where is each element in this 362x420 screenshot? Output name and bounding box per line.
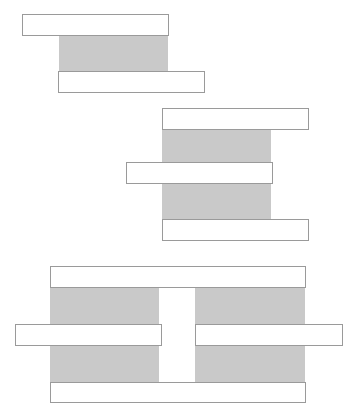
group-3-bar (15, 324, 162, 346)
group-1-bar (22, 14, 169, 36)
group-2-bar (162, 108, 309, 130)
group-3-bar (50, 266, 306, 288)
group-2-bar (126, 162, 273, 184)
group-1-bar (58, 71, 205, 93)
group-3-bar (195, 324, 343, 346)
group-3-bar (50, 382, 306, 403)
group-1-gray-region (59, 35, 168, 72)
group-2-bar (162, 219, 309, 241)
